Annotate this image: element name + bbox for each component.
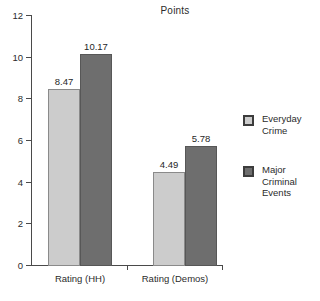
x-axis-label-rating-demos: Rating (Demos) <box>125 273 225 284</box>
x-axis-tick-separator <box>127 265 128 270</box>
chart-legend: Everyday Crime Major Criminal Events <box>243 113 320 219</box>
legend-label-major-criminal-events-line3: Events <box>262 187 320 199</box>
y-axis-tick-4 <box>26 182 31 183</box>
y-axis-label-6: 6 <box>3 135 23 146</box>
x-axis-label-rating-hh: Rating (HH) <box>30 273 130 284</box>
y-axis-tick-0 <box>26 265 31 266</box>
y-axis-label-2: 2 <box>3 218 23 229</box>
bar-major-criminal-events-rating-hh <box>80 54 112 266</box>
legend-label-everyday-crime-line2: Crime <box>262 125 320 137</box>
y-axis-tick-8 <box>26 98 31 99</box>
y-axis-label-0: 0 <box>3 260 23 271</box>
legend-label-everyday-crime-line1: Everyday <box>262 113 320 125</box>
bar-everyday-crime-rating-demos <box>153 172 185 266</box>
legend-swatch-icon-major-criminal-events <box>243 166 254 177</box>
legend-item-major-criminal-events[interactable]: Major Criminal Events <box>243 164 320 199</box>
bar-value-major-criminal-events-rating-demos: 5.78 <box>181 133 221 144</box>
legend-label-major-criminal-events-line2: Criminal <box>262 176 320 188</box>
x-axis-tick-end <box>222 265 223 270</box>
legend-swatch-icon-everyday-crime <box>243 115 254 126</box>
bar-chart: Points 12 10 8 6 4 2 0 8.47 10.17 4.49 5… <box>0 0 320 301</box>
y-axis-label-4: 4 <box>3 177 23 188</box>
y-axis-tick-10 <box>26 57 31 58</box>
y-axis-tick-6 <box>26 140 31 141</box>
legend-item-everyday-crime[interactable]: Everyday Crime <box>243 113 320 136</box>
y-axis-label-8: 8 <box>3 93 23 104</box>
y-axis-label-12: 12 <box>3 10 23 21</box>
bar-value-everyday-crime-rating-demos: 4.49 <box>149 159 189 170</box>
bar-value-everyday-crime-rating-hh: 8.47 <box>44 76 84 87</box>
legend-label-major-criminal-events-line1: Major <box>262 164 320 176</box>
chart-title: Points <box>120 5 230 16</box>
bar-value-major-criminal-events-rating-hh: 10.17 <box>76 41 116 52</box>
y-axis-tick-12 <box>26 15 31 16</box>
bar-major-criminal-events-rating-demos <box>185 146 217 266</box>
bar-everyday-crime-rating-hh <box>48 89 80 266</box>
y-axis-line <box>31 15 32 266</box>
y-axis-tick-2 <box>26 223 31 224</box>
y-axis-label-10: 10 <box>3 52 23 63</box>
